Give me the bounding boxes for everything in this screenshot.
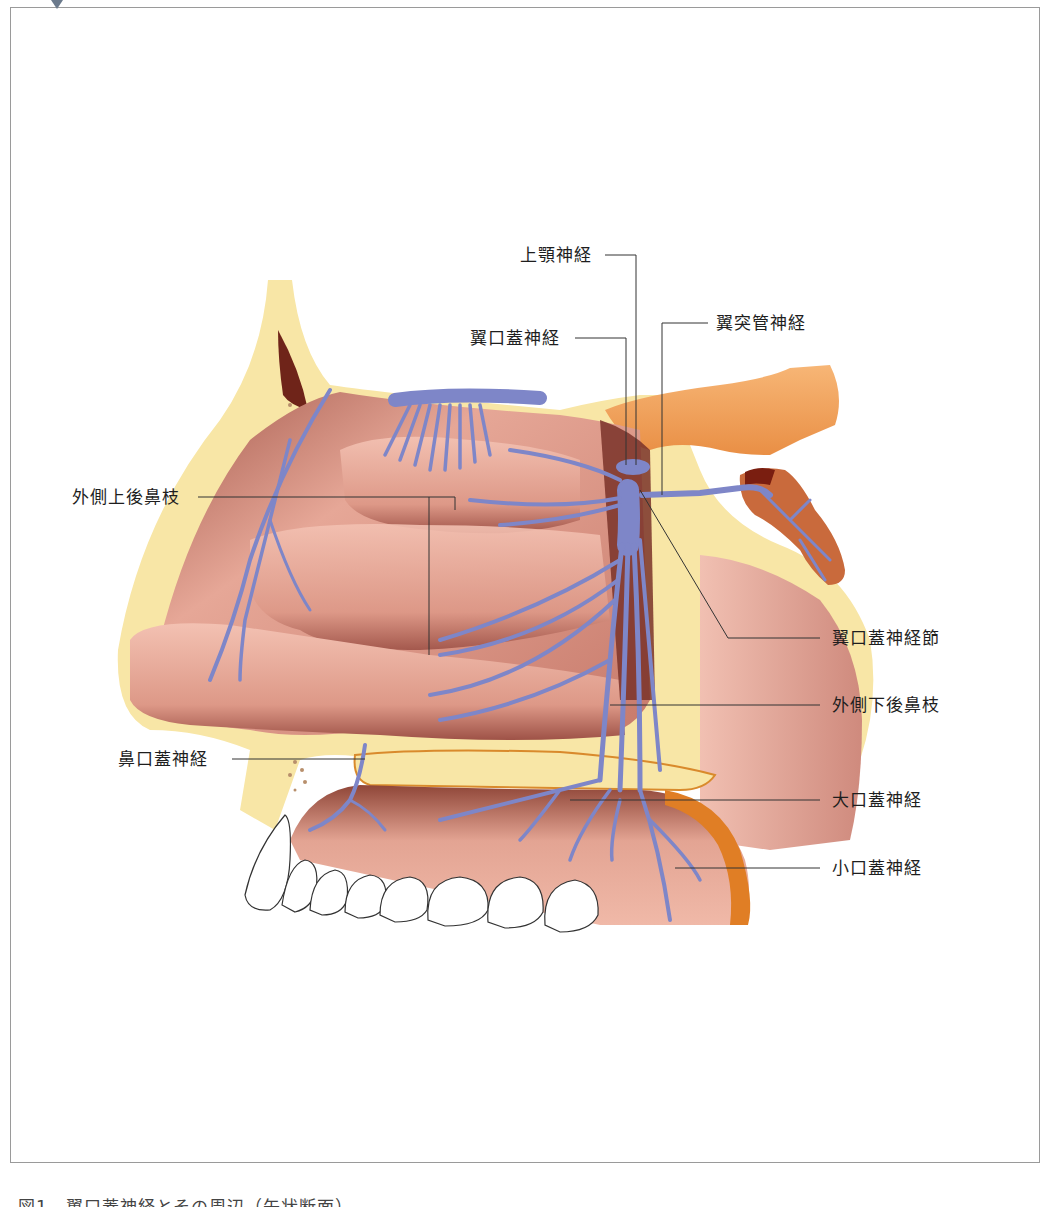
middle-turbinate: [250, 524, 610, 650]
figure-caption: 図1 翼口蓋神経とその周辺（矢状断面）: [18, 1193, 1018, 1207]
label-lateral-inferior-posterior-nasal-branches: 外側下後鼻枝: [832, 695, 940, 715]
label-greater-palatine-nerve: 大口蓋神経: [832, 790, 922, 810]
label-pterygopalatine-ganglion: 翼口蓋神経節: [832, 628, 940, 648]
label-lesser-palatine-nerve: 小口蓋神経: [832, 858, 922, 878]
label-pterygoid-canal-nerve: 翼突管神経: [716, 313, 806, 333]
label-maxillary-nerve: 上顎神経: [520, 245, 592, 265]
label-nasopalatine-nerve: 鼻口蓋神経: [118, 749, 208, 769]
label-lateral-superior-posterior-nasal-branches: 外側上後鼻枝: [72, 487, 180, 507]
label-pterygopalatine-nerve: 翼口蓋神経: [470, 328, 560, 348]
